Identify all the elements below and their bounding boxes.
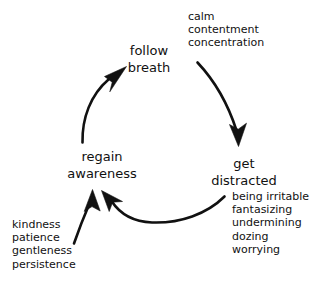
annotation-qualities: kindness patience gentleness persistence [12, 218, 76, 271]
annotation-qualities-line-4: persistence [12, 258, 76, 271]
annotation-positive-line-1: calm [188, 10, 264, 23]
arrow-qualities-to-regain [74, 190, 100, 244]
arrow-distracted-to-regain [102, 191, 225, 223]
node-get-distracted: get distracted [196, 155, 292, 189]
annotation-qualities-line-1: kindness [12, 218, 76, 231]
node-regain-awareness: regain awareness [50, 148, 154, 182]
node-follow-breath-line-1: follow [110, 42, 188, 59]
node-regain-awareness-line-1: regain [50, 148, 154, 165]
arrow-regain-to-breath [82, 67, 126, 143]
annotation-distractions-line-4: dozing [232, 230, 309, 243]
annotation-distractions-line-3: undermining [232, 216, 309, 229]
annotation-distractions: being irritable fantasizing undermining … [232, 190, 309, 256]
annotation-qualities-line-3: gentleness [12, 244, 76, 257]
cycle-diagram: follow breath get distracted regain awar… [0, 0, 315, 285]
node-follow-breath: follow breath [110, 42, 188, 76]
node-get-distracted-line-2: distracted [196, 172, 292, 189]
annotation-positive-line-3: concentration [188, 36, 264, 49]
node-get-distracted-line-1: get [196, 155, 292, 172]
node-follow-breath-line-2: breath [110, 59, 188, 76]
annotation-positive-line-2: contentment [188, 23, 264, 36]
annotation-distractions-line-5: worrying [232, 243, 309, 256]
node-regain-awareness-line-2: awareness [50, 165, 154, 182]
annotation-positive-states: calm contentment concentration [188, 10, 264, 50]
annotation-qualities-line-2: patience [12, 231, 76, 244]
annotation-distractions-line-1: being irritable [232, 190, 309, 203]
arrow-breath-to-distracted [198, 63, 247, 147]
annotation-distractions-line-2: fantasizing [232, 203, 309, 216]
